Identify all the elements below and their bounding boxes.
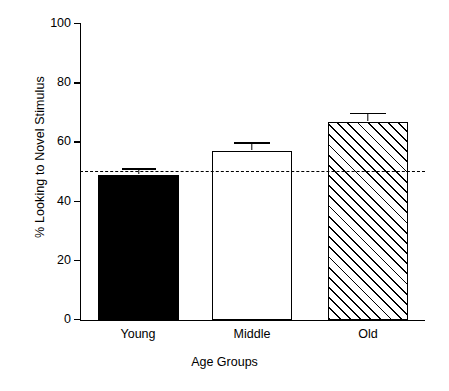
y-tick-40 [74,201,80,202]
y-tick-label-20: 20 [57,253,71,267]
y-tick-label-0: 0 [64,312,71,326]
x-axis-label: Age Groups [0,355,449,369]
y-tick-0 [74,319,80,320]
bar-young [98,175,179,320]
y-tick-20 [74,260,80,261]
y-tick-100 [74,23,80,24]
y-tick-label-100: 100 [50,16,71,30]
bar-middle [212,151,292,320]
y-tick-60 [74,141,80,142]
x-category-label-middle: Middle [234,327,271,341]
y-tick-label-40: 40 [57,194,71,208]
y-axis-label: % Looking to Novel Stimulus [33,47,47,267]
x-category-label-old: Old [358,327,377,341]
error-bar-middle [212,142,292,150]
x-category-label-young: Young [121,327,156,341]
x-axis-line [80,320,425,321]
reference-line-50 [80,171,425,172]
bar-chart-figure: % Looking to Novel Stimulus 100 80 60 40… [0,0,449,391]
plot-area: 100 80 60 40 20 0 Young Mi [80,23,425,321]
y-axis-line [80,23,81,321]
y-tick-80 [74,82,80,83]
bar-old [328,122,408,320]
y-tick-label-60: 60 [57,134,71,148]
y-tick-label-80: 80 [57,75,71,89]
error-bar-old [328,113,408,122]
